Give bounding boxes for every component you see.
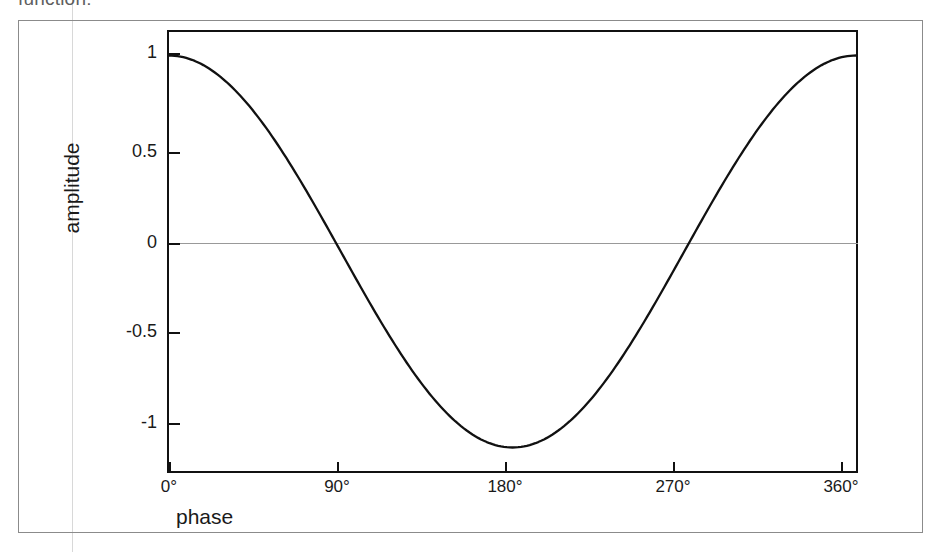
x-tick-mark <box>337 462 339 473</box>
y-axis-title: amplitude <box>60 108 84 268</box>
x-tick-label: 360° <box>801 478 881 495</box>
y-tick-mark <box>167 53 180 55</box>
clipped-caption-text: function: <box>18 0 92 10</box>
y-tick-label: 0 <box>97 233 157 251</box>
x-tick-mark <box>673 462 675 473</box>
y-axis-tick-labels: 10.50-0.5-1 <box>95 0 157 552</box>
y-tick-label: -0.5 <box>97 322 157 340</box>
y-tick-label: 0.5 <box>97 142 157 160</box>
y-tick-mark <box>167 243 180 245</box>
y-tick-mark <box>167 423 180 425</box>
x-axis-title: phase <box>176 505 233 529</box>
x-tick-label: 180° <box>465 478 545 495</box>
x-tick-label: 90° <box>297 478 377 495</box>
y-tick-label: -1 <box>97 413 157 431</box>
y-tick-mark <box>167 332 180 334</box>
x-tick-mark <box>505 462 507 473</box>
y-tick-mark <box>167 152 180 154</box>
x-tick-mark <box>169 462 171 473</box>
cosine-curve-path <box>169 56 856 448</box>
cosine-curve-svg <box>167 30 858 473</box>
x-tick-mark <box>841 462 843 473</box>
y-tick-label: 1 <box>97 43 157 61</box>
x-tick-label: 0° <box>129 478 209 495</box>
x-tick-label: 270° <box>633 478 713 495</box>
